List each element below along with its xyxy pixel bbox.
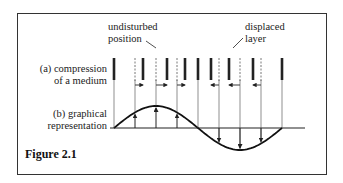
compression-wave-diagram bbox=[0, 0, 343, 183]
